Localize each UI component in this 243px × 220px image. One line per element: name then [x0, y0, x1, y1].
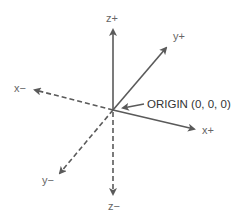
origin-label: ORIGIN (0, 0, 0)	[147, 98, 231, 110]
y-negative-axis	[60, 110, 113, 173]
x-positive-label: x+	[202, 124, 214, 136]
x-negative-label: x−	[14, 82, 26, 94]
origin-pointer-arrow	[123, 104, 144, 108]
z-positive-label: z+	[106, 12, 118, 24]
coordinate-axes-diagram: z+ y+ x+ x− y− z− ORIGIN (0, 0, 0)	[0, 0, 243, 220]
x-negative-axis	[35, 90, 113, 110]
z-negative-label: z−	[108, 200, 120, 212]
x-positive-axis	[113, 110, 194, 129]
y-negative-label: y−	[42, 174, 54, 186]
y-positive-label: y+	[173, 30, 185, 42]
